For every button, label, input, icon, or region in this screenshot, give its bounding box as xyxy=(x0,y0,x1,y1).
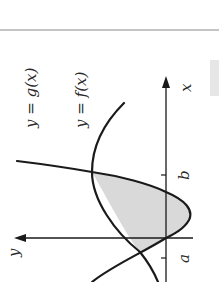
tick-label-b: b xyxy=(175,170,193,180)
area-between-curves-diagram: y = g(x) y = f(x) x y b a xyxy=(0,0,219,282)
x-axis-arrow-icon xyxy=(162,76,170,88)
shaded-region xyxy=(92,172,190,252)
label-f: y = f(x) xyxy=(72,72,90,129)
x-axis-label: x xyxy=(177,83,195,92)
svg-text:y: y xyxy=(5,248,23,258)
svg-text:a: a xyxy=(175,254,193,263)
svg-text:b: b xyxy=(175,170,193,180)
y-axis-arrow-icon xyxy=(14,234,26,242)
svg-text:x: x xyxy=(177,83,195,92)
y-axis-label: y xyxy=(5,248,23,258)
svg-text:y = f(x): y = f(x) xyxy=(72,72,90,129)
tick-label-a: a xyxy=(175,254,193,263)
side-tab xyxy=(210,60,219,96)
svg-text:y = g(x): y = g(x) xyxy=(22,68,40,129)
label-g: y = g(x) xyxy=(22,68,40,129)
